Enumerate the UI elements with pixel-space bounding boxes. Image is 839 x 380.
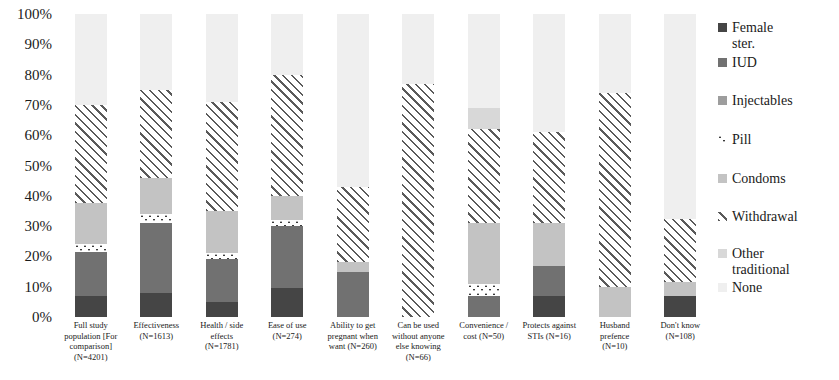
bar-segment-none[interactable] — [271, 14, 303, 75]
bar-segment-condoms[interactable] — [533, 223, 565, 265]
x-axis-label-line: comparison] — [52, 341, 130, 352]
legend-swatch-inject-icon — [718, 96, 727, 105]
stacked-bar[interactable] — [468, 14, 500, 317]
bar-segment-none[interactable] — [75, 14, 107, 105]
bar-segment-iud[interactable] — [337, 272, 369, 317]
bar-segment-pill[interactable] — [140, 214, 172, 223]
bar-segment-condoms[interactable] — [140, 178, 172, 214]
x-axis-label-line: (N=1781) — [183, 341, 261, 352]
bar-segment-withdrawal[interactable] — [271, 75, 303, 196]
x-axis-label-line: (N=10) — [576, 341, 654, 352]
legend-label: Condoms — [732, 171, 786, 187]
y-axis-tick: 60% — [25, 128, 53, 143]
legend-label: Female ster. — [732, 20, 773, 52]
y-axis-tick: 20% — [25, 249, 53, 264]
bar-segment-iud[interactable] — [468, 296, 500, 317]
bar-segment-withdrawal[interactable] — [337, 187, 369, 263]
x-axis-label-line: else knowing — [380, 341, 458, 352]
x-axis-label-line: Don't know — [642, 320, 720, 331]
bar-slot — [386, 14, 452, 317]
bar-segment-iud[interactable] — [533, 266, 565, 296]
bar-segment-none[interactable] — [402, 14, 434, 84]
bar-segment-female[interactable] — [140, 293, 172, 317]
bar-segment-condoms[interactable] — [75, 203, 107, 244]
legend-item-condoms[interactable]: Condoms — [718, 171, 786, 187]
bar-segment-none[interactable] — [468, 14, 500, 108]
bar-segment-condoms[interactable] — [664, 282, 696, 296]
bar-segment-withdrawal[interactable] — [140, 90, 172, 178]
legend-label: None — [732, 280, 762, 296]
bar-segment-none[interactable] — [140, 14, 172, 90]
legend-swatch-condoms-icon — [718, 174, 727, 183]
bar-segment-condoms[interactable] — [271, 196, 303, 220]
stacked-bar[interactable] — [140, 14, 172, 317]
y-axis-tick: 50% — [25, 158, 53, 173]
bar-segment-iud[interactable] — [271, 226, 303, 288]
bar-segment-condoms[interactable] — [337, 262, 369, 271]
legend-label: Withdrawal — [732, 209, 798, 225]
bar-segment-condoms[interactable] — [206, 211, 238, 253]
bar-segment-female[interactable] — [206, 302, 238, 317]
legend-swatch-pill-icon — [718, 135, 727, 144]
legend-swatch-none-icon — [718, 283, 727, 292]
legend-item-iud[interactable]: IUD — [718, 55, 757, 71]
legend-label: Other traditional — [732, 246, 790, 278]
legend-item-othertrad[interactable]: Other traditional — [718, 246, 790, 278]
bar-segment-withdrawal[interactable] — [206, 102, 238, 211]
stacked-bar-chart: 100%90%80%70%60%50%40%30%20%10%0% Full s… — [0, 0, 839, 380]
bar-segment-condoms[interactable] — [599, 287, 631, 317]
bar-segment-none[interactable] — [599, 14, 631, 93]
bar-segment-iud[interactable] — [206, 259, 238, 301]
bar-slot — [189, 14, 255, 317]
legend-item-none[interactable]: None — [718, 280, 762, 296]
bar-segment-withdrawal[interactable] — [533, 132, 565, 223]
y-axis-tick: 70% — [25, 97, 53, 112]
legend-label: Injectables — [732, 93, 793, 109]
bar-slot — [320, 14, 386, 317]
stacked-bar[interactable] — [206, 14, 238, 317]
bar-segment-withdrawal[interactable] — [402, 84, 434, 317]
x-axis-label-line: (N=66) — [380, 352, 458, 363]
stacked-bar[interactable] — [599, 14, 631, 317]
bar-slot — [255, 14, 321, 317]
stacked-bar[interactable] — [402, 14, 434, 317]
bar-segment-iud[interactable] — [75, 252, 107, 296]
stacked-bar[interactable] — [664, 14, 696, 317]
plot-area — [58, 14, 713, 317]
bar-segment-pill[interactable] — [75, 244, 107, 252]
bar-segment-condoms[interactable] — [468, 223, 500, 284]
legend-item-pill[interactable]: Pill — [718, 132, 751, 148]
legend-swatch-othertrad-icon — [718, 249, 727, 258]
bar-segment-none[interactable] — [533, 14, 565, 132]
bar-segment-female[interactable] — [533, 296, 565, 317]
y-axis-tick: 30% — [25, 219, 53, 234]
stacked-bar[interactable] — [337, 14, 369, 317]
y-axis-tick: 80% — [25, 67, 53, 82]
bar-segment-withdrawal[interactable] — [599, 93, 631, 287]
bar-segment-othertrad[interactable] — [468, 108, 500, 129]
bar-segment-none[interactable] — [664, 14, 696, 219]
stacked-bar[interactable] — [75, 14, 107, 317]
x-axis-label-line: (N=108) — [642, 331, 720, 342]
bar-segment-withdrawal[interactable] — [75, 105, 107, 203]
bar-segment-iud[interactable] — [140, 223, 172, 293]
bar-segment-female[interactable] — [271, 288, 303, 317]
legend-item-female[interactable]: Female ster. — [718, 20, 773, 52]
stacked-bar[interactable] — [271, 14, 303, 317]
bar-segment-female[interactable] — [75, 296, 107, 317]
bar-segment-withdrawal[interactable] — [468, 129, 500, 223]
bar-slot — [648, 14, 714, 317]
bar-segment-none[interactable] — [206, 14, 238, 102]
bar-slot — [58, 14, 124, 317]
bar-segment-female[interactable] — [664, 296, 696, 317]
x-axis-label-line: (N=4201) — [52, 352, 130, 363]
bar-segment-none[interactable] — [337, 14, 369, 187]
legend-item-withdrawal[interactable]: Withdrawal — [718, 209, 798, 225]
bar-segment-pill[interactable] — [468, 284, 500, 296]
bar-segment-withdrawal[interactable] — [664, 219, 696, 283]
y-axis-tick: 90% — [25, 37, 53, 52]
stacked-bar[interactable] — [533, 14, 565, 317]
legend-label: Pill — [732, 132, 751, 148]
y-axis: 100%90%80%70%60%50%40%30%20%10%0% — [0, 0, 58, 330]
legend-item-inject[interactable]: Injectables — [718, 93, 793, 109]
